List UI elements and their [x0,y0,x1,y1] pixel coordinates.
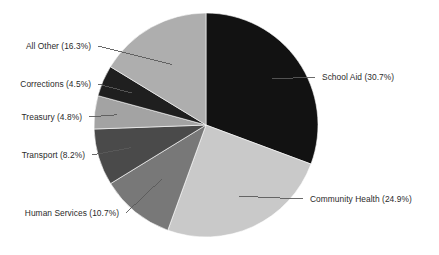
slice-label-all-other: All Other (16.3%) [26,41,91,51]
slice-label-human-services: Human Services (10.7%) [25,208,119,218]
slice-label-corrections: Corrections (4.5%) [20,79,91,89]
slice-label-treasury: Treasury (4.8%) [22,112,83,122]
pie-chart-figure: School Aid (30.7%) Community Health (24.… [0,0,439,255]
slice-label-school-aid: School Aid (30.7%) [322,72,394,82]
slice-label-community-health: Community Health (24.9%) [310,194,412,204]
pie-slices-group [94,13,318,237]
slice-label-transport: Transport (8.2%) [22,150,85,160]
pie-chart-canvas: School Aid (30.7%) Community Health (24.… [0,0,439,255]
